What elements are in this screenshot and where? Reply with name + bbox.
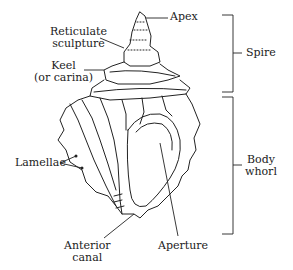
apex-label: Apex (170, 11, 198, 23)
aperture-label: Aperture (158, 240, 208, 252)
body-whorl-bracket (222, 97, 242, 234)
spire-label: Spire (246, 47, 276, 59)
shell-diagram: Apex Reticulate sculpture Keel (or carin… (0, 0, 293, 270)
lamellae-label: Lamellae (15, 157, 66, 169)
aperture-leader (160, 143, 178, 236)
spire-bracket (222, 15, 242, 92)
anterior-canal-label: Anterior canal (64, 240, 111, 264)
aperture-outline (127, 114, 180, 207)
keel-label: Keel (or carina) (34, 60, 93, 84)
anterior-canal-leader (104, 214, 134, 238)
shell-illustration (0, 0, 293, 270)
reticulate-sculpture-label: Reticulate sculpture (50, 26, 107, 50)
keel-whorl (104, 62, 180, 84)
body-whorl-outline (58, 94, 200, 218)
apex-whorls (124, 12, 160, 66)
body-whorl-label: Body whorl (245, 154, 277, 178)
